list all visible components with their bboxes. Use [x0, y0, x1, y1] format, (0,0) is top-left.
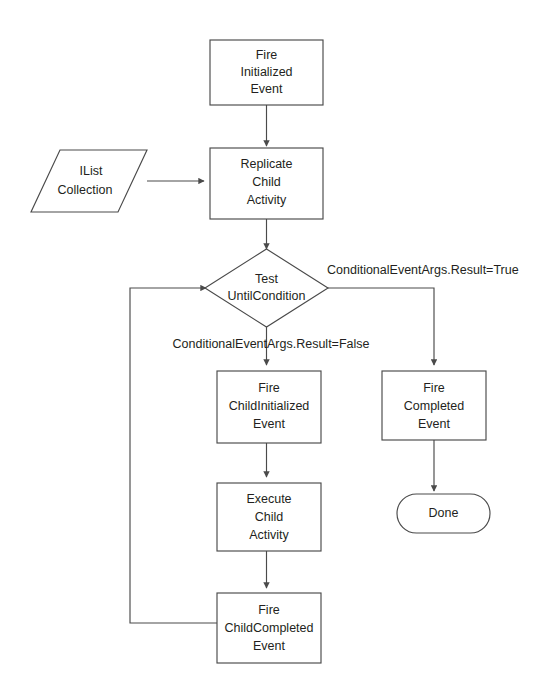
fire-completed-line-1: Fire	[423, 381, 445, 395]
execute-child-line-1: Execute	[246, 492, 291, 506]
node-done-terminator[interactable]: Done	[397, 494, 490, 533]
fire-completed-line-2: Completed	[404, 399, 464, 413]
node-replicate-child-activity[interactable]: Replicate Child Activity	[210, 148, 323, 219]
flowchart-svg: ConditionalEventArgs.Result=True Conditi…	[0, 0, 553, 679]
fire-initialized-line-2: Initialized	[240, 65, 292, 79]
replicate-child-line-2: Child	[252, 175, 281, 189]
edge-label-result-false: ConditionalEventArgs.Result=False	[173, 337, 370, 351]
fire-child-initialized-line-3: Event	[253, 417, 285, 431]
edge-label-result-true: ConditionalEventArgs.Result=True	[327, 263, 519, 277]
ilist-collection-line-2: Collection	[58, 183, 113, 197]
edge-test-true-to-fire-completed	[322, 288, 434, 365]
test-until-condition-line-2: UntilCondition	[228, 289, 306, 303]
node-test-until-condition[interactable]: Test UntilCondition	[205, 249, 328, 327]
fire-child-completed-line-2: ChildCompleted	[225, 621, 314, 635]
execute-child-line-3: Activity	[249, 528, 289, 542]
fire-initialized-line-1: Fire	[256, 48, 278, 62]
test-until-condition-diamond[interactable]	[205, 249, 328, 327]
node-ilist-collection[interactable]: IList Collection	[31, 150, 147, 212]
flowchart-canvas: ConditionalEventArgs.Result=True Conditi…	[0, 0, 553, 679]
replicate-child-line-1: Replicate	[240, 157, 292, 171]
fire-child-initialized-line-1: Fire	[258, 381, 280, 395]
fire-child-initialized-line-2: ChildInitialized	[229, 399, 310, 413]
node-fire-child-initialized-event[interactable]: Fire ChildInitialized Event	[217, 371, 321, 443]
execute-child-line-2: Child	[255, 510, 284, 524]
node-fire-completed-event[interactable]: Fire Completed Event	[382, 371, 486, 440]
test-until-condition-line-1: Test	[255, 272, 278, 286]
fire-completed-line-3: Event	[418, 417, 450, 431]
fire-child-completed-line-3: Event	[253, 639, 285, 653]
node-execute-child-activity[interactable]: Execute Child Activity	[217, 483, 321, 551]
fire-initialized-line-3: Event	[251, 82, 283, 96]
ilist-collection-line-1: IList	[80, 164, 103, 178]
fire-child-completed-line-1: Fire	[258, 603, 280, 617]
ilist-collection-parallelogram[interactable]	[31, 150, 147, 212]
replicate-child-line-3: Activity	[247, 193, 287, 207]
node-fire-initialized-event[interactable]: Fire Initialized Event	[210, 40, 323, 105]
done-label: Done	[429, 506, 459, 520]
node-fire-child-completed-event[interactable]: Fire ChildCompleted Event	[217, 593, 321, 663]
